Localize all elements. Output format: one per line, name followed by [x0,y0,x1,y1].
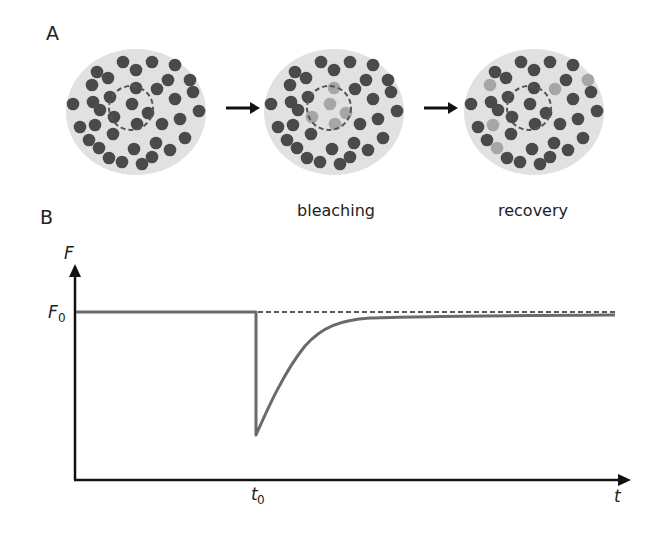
fluorescent-molecule [567,59,580,72]
fluorescent-molecule [548,137,561,150]
fluorescent-molecule [326,143,339,156]
fluorescent-molecule [67,98,80,111]
chart-axes [69,264,631,486]
fluorescent-molecule [577,132,590,145]
fluorescent-molecule [187,86,200,99]
fluorescent-molecule [151,83,164,96]
fluorescent-molecule [126,98,139,111]
fluorescent-molecule [534,158,547,171]
fluorescent-molecule [544,56,557,69]
fluorescent-molecule [528,64,541,77]
fluorescent-molecule [86,79,99,92]
fluorescent-molecule [591,105,604,118]
fluorescent-molecule [492,104,505,117]
panel-b-label: B [40,206,53,228]
svg-text:0: 0 [257,493,265,507]
fluorescent-molecule [162,74,175,87]
fluorescent-molecule [284,79,297,92]
fluorescent-molecule [193,105,206,118]
fluorescent-molecule [344,56,357,69]
fluorescent-molecule [385,86,398,99]
fluorescent-molecule [291,142,304,155]
fluorescent-molecule [367,59,380,72]
fluorescent-molecule [515,56,528,69]
fluorescent-molecule [501,152,514,165]
fluorescent-molecule [287,119,300,132]
caption-bleaching: bleaching [297,201,375,220]
fluorescent-molecule [169,59,182,72]
fluorescent-molecule [179,132,192,145]
fluorescent-molecule [465,98,478,111]
fluorescent-molecule [93,142,106,155]
fluorescent-molecule [526,143,539,156]
fluorescent-molecule [156,118,169,131]
fluorescent-molecule [150,137,163,150]
right-arrow-icon [424,102,458,114]
fluorescent-molecule [328,64,341,77]
cell-recovery [464,49,604,175]
x-axis-arrow-icon [618,474,631,486]
bleached-molecule [484,79,497,92]
fluorescent-molecule [184,74,197,87]
fluorescent-molecule [116,156,129,169]
fluorescent-molecule [281,134,294,147]
fluorescent-molecule [360,74,373,87]
fluorescent-molecule [372,113,385,126]
fluorescent-molecule [362,144,375,157]
fluorescent-molecule [265,98,278,111]
bleached-molecule [582,74,595,87]
fluorescent-molecule [108,111,121,124]
fluorescent-molecule [102,72,115,85]
y-axis-label: F [64,243,74,263]
fluorescent-molecule [560,74,573,87]
fluorescent-molecule [117,56,130,69]
fluorescent-molecule [382,74,395,87]
fluorescent-molecule [354,118,367,131]
frap-figure: A bleaching recovery B F F 0 t t 0 [0,0,650,533]
fluorescent-molecule [334,158,347,171]
fluorescent-molecule [514,156,527,169]
fluorescent-molecule [169,93,182,106]
y-axis-arrow-icon [69,264,81,277]
fluorescence-curve [76,312,615,435]
fluorescent-molecule [472,121,485,134]
fluorescent-molecule [349,83,362,96]
fluorescent-molecule [554,118,567,131]
fluorescent-molecule [314,156,327,169]
fluorescent-molecule [572,113,585,126]
x-axis-label: t [614,486,622,506]
fluorescent-molecule [506,111,519,124]
fluorescent-molecule [391,105,404,118]
cell-bleaching [264,49,404,175]
fluorescent-molecule [107,128,120,141]
fluorescent-molecule [500,72,513,85]
fluorescent-molecule [174,113,187,126]
svg-text:0: 0 [58,311,66,325]
right-arrow-icon [226,102,260,114]
fluorescent-molecule [292,104,305,117]
bleached-molecule [491,142,504,155]
fluorescent-molecule [94,104,107,117]
cell-before [66,49,206,175]
fluorescent-molecule [103,152,116,165]
x-ref-label: t 0 [251,484,265,507]
fluorescent-molecule [272,121,285,134]
fluorescent-molecule [377,132,390,145]
fluorescent-molecule [130,64,143,77]
fluorescent-molecule [481,134,494,147]
fluorescent-molecule [300,72,313,85]
fluorescent-molecule [562,144,575,157]
fluorescent-molecule [505,128,518,141]
fluorescent-molecule [146,56,159,69]
fluorescent-molecule [585,86,598,99]
fluorescent-molecule [315,56,328,69]
bleached-molecule [549,83,562,96]
fluorescent-molecule [289,66,302,79]
svg-text:F: F [48,302,58,322]
fluorescent-molecule [74,121,87,134]
bleached-molecule [306,111,319,124]
bleached-molecule [487,119,500,132]
fluorescent-molecule [489,66,502,79]
fluorescent-molecule [567,93,580,106]
fluorescent-molecule [136,158,149,171]
